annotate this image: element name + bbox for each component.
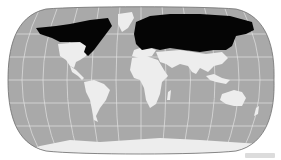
world-map: [0, 0, 281, 160]
corner-artifact: [245, 153, 275, 158]
